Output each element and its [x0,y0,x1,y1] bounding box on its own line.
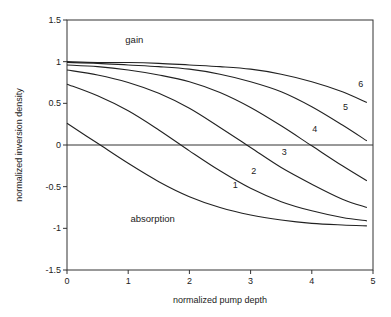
curve-1 [67,123,367,225]
x-tick-label: 2 [187,276,192,286]
y-tick-label: 0 [56,140,61,150]
x-axis-ticks: 012345 [64,270,375,286]
x-tick-label: 3 [248,276,253,286]
curve-3 [67,70,367,208]
curve-label-2: 2 [251,166,256,176]
curve-label-4: 4 [312,124,317,134]
y-tick-label: 1 [56,57,61,67]
x-tick-label: 0 [64,276,69,286]
y-tick-label: -1.5 [45,265,61,275]
annotation-gain: gain [125,34,143,45]
curves [67,62,367,226]
x-axis-title: normalized pump depth [173,295,267,305]
x-tick-label: 5 [370,276,375,286]
y-tick-label: -1 [53,223,61,233]
curve-label-1: 1 [233,180,238,190]
annotation-absorption: absorption [130,213,174,224]
x-tick-label: 1 [126,276,131,286]
curve-labels: 123456 [233,79,363,191]
y-tick-label: -0.5 [45,182,61,192]
curve-5 [67,63,367,141]
x-tick-label: 4 [309,276,314,286]
inversion-density-chart: 1.510.50-0.5-1-1.5 012345 123456 gainabs… [0,0,391,317]
curve-label-6: 6 [358,79,363,89]
curve-4 [67,65,367,181]
y-axis-ticks: 1.510.50-0.5-1-1.5 [45,15,67,275]
curve-label-3: 3 [282,147,287,157]
curve-label-5: 5 [343,102,348,112]
y-axis-title: normalized inversion density [14,88,24,202]
y-tick-label: 0.5 [48,98,61,108]
y-tick-label: 1.5 [48,15,61,25]
